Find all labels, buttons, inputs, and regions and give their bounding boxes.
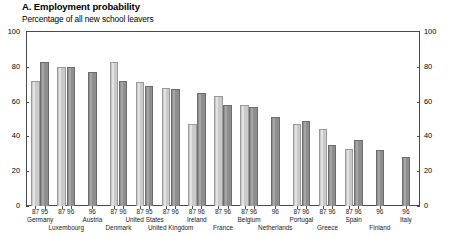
x-country-label-belgium: Belgium	[219, 217, 279, 224]
bar-united-kingdom-87	[162, 88, 171, 206]
bar-highlight	[59, 68, 61, 206]
bar-portugal-87	[293, 124, 302, 206]
bar-highlight	[347, 150, 349, 206]
bar-highlight	[69, 68, 71, 206]
plot-area	[27, 32, 419, 206]
bar-germany-95	[40, 62, 49, 206]
bar-highlight	[33, 82, 35, 206]
bar-denmark-96	[119, 81, 128, 206]
x-country-label-united-kingdom: United Kingdom	[141, 225, 201, 232]
bar-highlight	[90, 73, 92, 206]
bar-united-states-87	[136, 82, 145, 206]
bar-portugal-96	[302, 121, 311, 206]
bar-highlight	[173, 90, 175, 206]
x-country-label-austria: Austria	[62, 217, 122, 224]
bar-highlight	[330, 146, 332, 206]
x-country-label-portugal: Portugal	[271, 217, 331, 224]
bar-highlight	[42, 63, 44, 206]
y-tick-label-left-40: 40	[12, 132, 20, 139]
bar-highlight	[216, 97, 218, 206]
x-year-label-italy: 96	[386, 209, 426, 216]
y-tick-label-right-20: 20	[424, 167, 432, 174]
bar-highlight	[251, 108, 253, 206]
bar-highlight	[273, 118, 275, 206]
bar-ireland-87	[188, 124, 197, 206]
bar-highlight	[147, 87, 149, 206]
bar-highlight	[304, 122, 306, 206]
bar-netherlands-96	[271, 117, 280, 206]
bar-highlight	[190, 125, 192, 206]
bar-highlight	[138, 83, 140, 206]
bar-italy-96	[402, 157, 411, 206]
bar-belgium-96	[249, 107, 258, 206]
x-country-label-luxembourg: Luxembourg	[36, 225, 96, 232]
bar-highlight	[242, 106, 244, 206]
bar-highlight	[404, 158, 406, 206]
bar-ireland-96	[197, 93, 206, 206]
y-tick-label-right-40: 40	[424, 132, 432, 139]
bar-highlight	[378, 151, 380, 206]
bar-denmark-87	[110, 62, 119, 206]
y-tick-label-left-20: 20	[12, 167, 20, 174]
y-tick-mark-left-0	[26, 206, 29, 207]
bar-germany-87	[31, 81, 40, 206]
page-title: A. Employment probability	[22, 1, 140, 12]
x-country-label-finland: Finland	[350, 225, 410, 232]
x-country-label-united-states: United States	[115, 217, 175, 224]
x-country-label-netherlands: Netherlands	[245, 225, 305, 232]
bar-united-kingdom-96	[171, 89, 180, 206]
y-tick-label-left-60: 60	[12, 98, 20, 105]
bar-highlight	[321, 130, 323, 206]
bar-france-87	[214, 96, 223, 206]
y-tick-label-left-100: 100	[8, 28, 20, 35]
bar-austria-96	[88, 72, 97, 206]
chart-subtitle: Percentage of all new school leavers	[22, 14, 154, 24]
bar-highlight	[295, 125, 297, 206]
x-country-label-denmark: Denmark	[88, 225, 148, 232]
y-tick-label-right-60: 60	[424, 98, 432, 105]
x-country-label-france: France	[193, 225, 253, 232]
x-country-label-spain: Spain	[324, 217, 384, 224]
x-country-label-ireland: Ireland	[167, 217, 227, 224]
y-tick-mark-right-0	[417, 206, 420, 207]
bar-luxembourg-96	[67, 67, 76, 206]
bar-spain-87	[345, 149, 354, 206]
bar-highlight	[112, 63, 114, 206]
bar-greece-87	[319, 129, 328, 206]
y-tick-label-left-80: 80	[12, 63, 20, 70]
bar-luxembourg-87	[57, 67, 66, 206]
x-country-label-germany: Germany	[10, 217, 70, 224]
bar-highlight	[121, 82, 123, 206]
bar-finland-96	[376, 150, 385, 206]
bar-belgium-87	[240, 105, 249, 206]
x-country-label-greece: Greece	[298, 225, 358, 232]
y-tick-label-right-80: 80	[424, 63, 432, 70]
bar-greece-96	[328, 145, 337, 206]
y-tick-label-right-100: 100	[424, 28, 436, 35]
bar-united-states-95	[145, 86, 154, 206]
bar-highlight	[356, 141, 358, 206]
x-country-label-italy: Italy	[376, 217, 436, 224]
bar-highlight	[199, 94, 201, 206]
bar-france-96	[223, 105, 232, 206]
employment-probability-chart: A. Employment probability Percentage of …	[0, 0, 458, 237]
bar-spain-96	[354, 140, 363, 206]
bar-highlight	[164, 89, 166, 206]
bar-highlight	[225, 106, 227, 206]
